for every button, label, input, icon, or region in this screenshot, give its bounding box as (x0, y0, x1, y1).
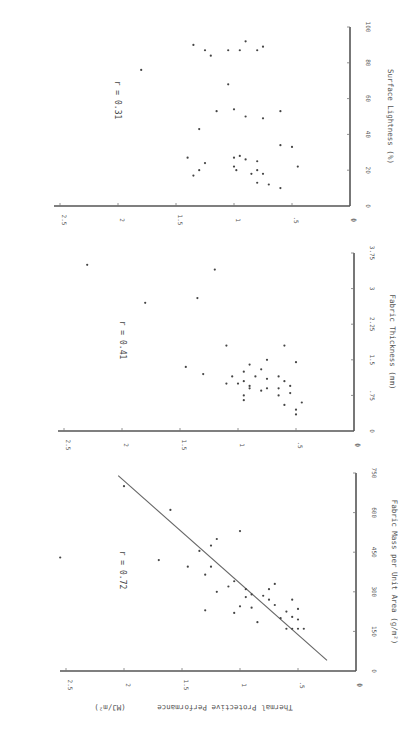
data-point (196, 297, 198, 299)
data-point (278, 387, 280, 389)
variable-tick-label: 0 (371, 669, 378, 673)
data-point (231, 375, 233, 377)
data-point (303, 628, 305, 630)
data-point (235, 169, 237, 171)
variable-tick-label: 3 (369, 287, 376, 291)
data-point (278, 394, 280, 396)
data-point (140, 69, 142, 71)
panel-top: 0.511.522.50204060801000Surface Lightnes… (54, 22, 395, 226)
data-point (202, 373, 204, 375)
regression-line (118, 476, 327, 661)
data-point (192, 44, 194, 46)
variable-tick-label: 1.5 (369, 354, 376, 365)
tpp-tick-label: .5 (299, 681, 306, 689)
data-point (297, 618, 299, 620)
data-point (262, 46, 264, 48)
data-point (245, 115, 247, 117)
data-point (225, 344, 227, 346)
tpp-tick-label: .5 (297, 441, 304, 449)
data-point (249, 363, 251, 365)
tpp-tick-label: 1.5 (181, 440, 188, 451)
data-point (204, 49, 206, 51)
data-point (262, 117, 264, 119)
data-point (297, 166, 299, 168)
data-point (243, 371, 245, 373)
variable-tick-label: 3.75 (369, 246, 376, 261)
data-point (169, 509, 171, 511)
data-point (233, 157, 235, 159)
tpp-tick-label: 2.5 (67, 680, 74, 691)
data-point (227, 585, 229, 587)
tpp-tick-label: 1.5 (177, 215, 184, 226)
data-point (291, 616, 293, 618)
data-point (250, 173, 252, 175)
ylabel-text: Thermal Protective Performance (157, 703, 293, 712)
shared-ylabel: Thermal Protective Performance (MJ/m²) (94, 703, 293, 712)
rotated-figure: 0.511.522.501503004506007500Fabric Mass … (0, 0, 401, 729)
variable-tick-label: 150 (371, 626, 378, 637)
data-point (278, 375, 280, 377)
data-point (260, 368, 262, 370)
data-point (187, 157, 189, 159)
data-point (295, 409, 297, 411)
data-point (233, 108, 235, 110)
data-point (245, 40, 247, 42)
data-point (198, 550, 200, 552)
correlation-annotation: r = 0.31 (113, 81, 122, 120)
tpp-tick-label: 2 (119, 218, 126, 222)
correlation-annotation: r = 0.72 (118, 551, 127, 590)
tpp-tick-label: 1 (239, 443, 246, 447)
data-point (289, 385, 291, 387)
data-point (274, 604, 276, 606)
data-point (239, 155, 241, 157)
data-point (295, 413, 297, 415)
data-point (262, 173, 264, 175)
data-point (216, 110, 218, 112)
data-point (158, 559, 160, 561)
data-point (256, 169, 258, 171)
data-point (249, 387, 251, 389)
tpp-tick-label: 2.5 (65, 440, 72, 451)
data-point (227, 49, 229, 51)
data-point (204, 162, 206, 164)
variable-tick-label: 0 (365, 204, 372, 208)
data-point (254, 375, 256, 377)
variable-tick-label: 750 (371, 468, 378, 479)
data-point (233, 166, 235, 168)
data-point (280, 617, 282, 619)
correlation-annotation: r = 0.41 (118, 321, 127, 360)
data-point (225, 382, 227, 384)
data-point (86, 264, 88, 266)
data-point (283, 344, 285, 346)
data-point (297, 628, 299, 630)
data-point (233, 580, 235, 582)
data-point (262, 595, 264, 597)
tpp-tick-label: 2 (123, 443, 130, 447)
data-point (245, 596, 247, 598)
data-point (283, 380, 285, 382)
panel-middle: 0.511.522.50.751.52.2533.750Fabric Thick… (58, 246, 397, 451)
data-point (274, 583, 276, 585)
panels-group: 0.511.522.501503004506007500Fabric Mass … (54, 22, 399, 691)
data-point (239, 49, 241, 51)
origin-label: 0 (350, 218, 357, 222)
variable-tick-label: 0 (369, 429, 376, 433)
data-point (291, 146, 293, 148)
data-point (266, 359, 268, 361)
data-point (187, 566, 189, 568)
variable-tick-label: .75 (369, 390, 376, 401)
data-point (227, 83, 229, 85)
variable-tick-label: 450 (371, 547, 378, 558)
tpp-tick-label: .5 (293, 216, 300, 224)
data-point (251, 607, 253, 609)
data-point (192, 174, 194, 176)
data-point (239, 530, 241, 532)
data-point (204, 574, 206, 576)
data-point (214, 269, 216, 271)
data-point (216, 538, 218, 540)
data-point (279, 110, 281, 112)
data-point (237, 382, 239, 384)
data-point (295, 361, 297, 363)
data-point (251, 593, 253, 595)
data-point (283, 404, 285, 406)
